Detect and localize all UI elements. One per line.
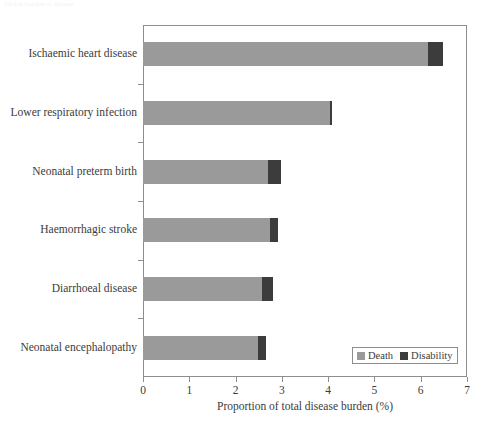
x-axis-tick-label: 7 [455, 383, 478, 397]
x-axis-tick-label: 6 [409, 383, 433, 397]
x-axis-tick-label: 4 [316, 383, 340, 397]
x-axis-tick-label: 1 [177, 383, 201, 397]
y-axis-category-label: Haemorrhagic stroke [0, 223, 137, 235]
x-axis-tick [282, 377, 283, 382]
legend-swatch-disability-icon [400, 352, 408, 360]
bar-segment-disability[interactable] [270, 218, 278, 242]
x-axis-tick [236, 377, 237, 382]
y-axis-category-label: Lower respiratory infection [0, 106, 137, 118]
y-axis-category-label: Neonatal preterm birth [0, 165, 137, 177]
x-axis-tick [467, 377, 468, 382]
x-axis-tick [189, 377, 190, 382]
x-axis-tick [328, 377, 329, 382]
chart-legend: Death Disability [352, 347, 458, 364]
x-axis-tick [143, 377, 144, 382]
legend-swatch-death-icon [357, 352, 365, 360]
bar-segment-disability[interactable] [330, 101, 331, 125]
y-axis-tick [138, 318, 144, 319]
x-axis-tick [421, 377, 422, 382]
bar-segment-disability[interactable] [258, 336, 266, 360]
bar-segment-death[interactable] [143, 218, 270, 242]
legend-entry-death[interactable]: Death [357, 350, 393, 361]
legend-entry-disability[interactable]: Disability [400, 350, 452, 361]
legend-label-disability: Disability [411, 350, 452, 361]
bar-segment-disability[interactable] [268, 160, 281, 184]
x-axis-title: Proportion of total disease burden (%) [143, 399, 467, 413]
bar-segment-disability[interactable] [428, 42, 443, 66]
y-axis-tick [138, 84, 144, 85]
y-axis-tick [138, 142, 144, 143]
x-axis-tick-label: 0 [131, 383, 155, 397]
bar-segment-death[interactable] [143, 42, 428, 66]
x-axis-tick-label: 2 [224, 383, 248, 397]
x-axis-tick [374, 377, 375, 382]
legend-label-death: Death [368, 350, 393, 361]
y-axis-tick [138, 201, 144, 202]
y-axis-category-label: Neonatal encephalopathy [0, 341, 137, 353]
y-axis-category-label: Diarrhoeal disease [0, 282, 137, 294]
plot-area [143, 25, 467, 377]
bar-segment-death[interactable] [143, 160, 268, 184]
y-axis-tick [138, 260, 144, 261]
bar-segment-death[interactable] [143, 101, 330, 125]
bar-segment-disability[interactable] [262, 277, 273, 301]
bar-segment-death[interactable] [143, 336, 258, 360]
bar-segment-death[interactable] [143, 277, 262, 301]
x-axis-tick-label: 5 [362, 383, 386, 397]
stacked-bar-chart: Ischaemic heart diseaseLower respiratory… [0, 0, 478, 432]
x-axis-tick-label: 3 [270, 383, 294, 397]
y-axis-category-label: Ischaemic heart disease [0, 47, 137, 59]
